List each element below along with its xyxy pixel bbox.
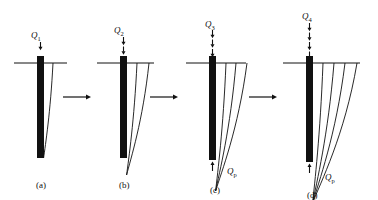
panel-b-caption: (b) [119, 181, 130, 190]
panel-d-caption: (d) [307, 191, 318, 200]
panel-d-load-label: Q4 [302, 12, 312, 23]
panel-c-caption-base: (c) [210, 185, 220, 195]
panel-d-point-resistance-arrow-head [308, 164, 312, 168]
panel-a-pile-shaft [37, 56, 44, 158]
panel-a-caption-base: (a) [36, 180, 46, 190]
arrow-a-to-b-head [86, 94, 91, 99]
panel-a-caption: (a) [36, 181, 46, 190]
panel-c-caption: (c) [210, 186, 220, 195]
panel-b-load-label: Q2 [114, 26, 124, 37]
panel-d-caption-base: (d) [307, 190, 318, 200]
pile-load-transfer-figure: Q1(a)Q2(b)Q3Qp(c)Q4Qp(d) [0, 0, 378, 200]
panel-d-load-arrow-2-head [308, 37, 312, 41]
panel-b-load-arrow-2-head [122, 51, 126, 55]
panel-b-shear-curve-1 [127, 63, 137, 175]
panel-b-shear-curve-2 [127, 63, 149, 175]
panel-c-pile-shaft [209, 56, 216, 160]
panel-b-caption-base: (b) [119, 180, 130, 190]
arrow-b-to-c-head [173, 94, 178, 99]
panel-d-load-label-subscript: 4 [309, 16, 312, 23]
panel-c-load-label-subscript: 3 [212, 24, 215, 31]
panel-a-shear-curve-1 [44, 63, 53, 158]
panel-d-load-arrow-1-head [308, 28, 312, 32]
panel-d-pile-shaft [306, 56, 313, 162]
panel-c-point-resistance-arrow-head [211, 162, 215, 166]
panel-b-load-label-subscript: 2 [121, 30, 124, 37]
panel-c-load-label: Q3 [205, 20, 215, 31]
panel-c-shear-curve-1 [216, 63, 226, 191]
panel-d-load-arrow-3-head [308, 47, 312, 51]
panel-c-load-arrow-2-head [211, 44, 215, 48]
panel-b-pile-shaft [120, 56, 127, 158]
arrow-c-to-d-head [272, 94, 277, 99]
panel-d-point-resistance-label: Qp [325, 173, 335, 184]
panel-c-point-resistance-label-subscript: p [234, 171, 237, 178]
panel-c-load-arrow-1-head [211, 35, 215, 39]
panel-a-load-arrow-1-head [39, 47, 43, 51]
panel-a-load-label-subscript: 1 [38, 35, 41, 42]
panel-c-point-resistance-label: Qp [227, 167, 237, 178]
figure-canvas [0, 0, 378, 200]
panel-a-load-label: Q1 [31, 31, 41, 42]
panel-b-load-arrow-1-head [122, 42, 126, 46]
panel-d-point-resistance-label-subscript: p [332, 177, 335, 184]
